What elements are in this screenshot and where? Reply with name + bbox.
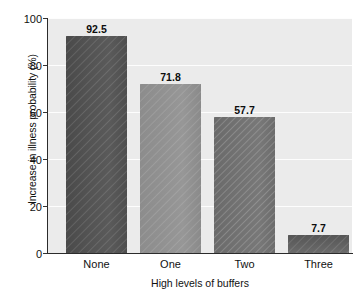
gridline-100 [48, 18, 352, 19]
bar-two-hatch-texture [214, 117, 275, 253]
y-tick-label-40: 40 [16, 155, 42, 166]
x-tick-label-none: None [66, 258, 127, 270]
y-axis-line [47, 18, 48, 254]
data-label-one: 71.8 [140, 72, 201, 83]
bar-none-hatch-texture [66, 36, 127, 253]
plot-area [48, 18, 352, 253]
y-tick-label-0: 0 [16, 249, 42, 260]
x-axis-line [47, 253, 353, 254]
bar-two [214, 117, 275, 253]
bar-chart-figure: Increase in illness probability (%) 100 … [0, 0, 363, 299]
bar-none [66, 36, 127, 253]
data-label-none: 92.5 [66, 24, 127, 35]
data-label-three: 7.7 [288, 223, 349, 234]
x-axis-title: High levels of buffers [48, 277, 352, 289]
x-tick-label-one: One [140, 258, 201, 270]
y-tick-label-80: 80 [16, 61, 42, 72]
bar-one-hatch-texture [140, 84, 201, 253]
data-label-two: 57.7 [214, 105, 275, 116]
y-axis-tick-labels: 100 80 60 40 20 0 [14, 0, 42, 299]
y-tick-label-20: 20 [16, 202, 42, 213]
y-tick-label-60: 60 [16, 108, 42, 119]
y-tick-label-100: 100 [16, 14, 42, 25]
x-tick-label-three: Three [288, 258, 349, 270]
x-tick-label-two: Two [214, 258, 275, 270]
bar-three-hatch-texture [288, 235, 349, 253]
bar-three [288, 235, 349, 253]
bar-one [140, 84, 201, 253]
